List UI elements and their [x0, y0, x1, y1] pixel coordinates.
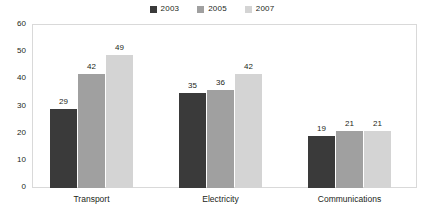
- y-tick-label: 40: [17, 74, 26, 82]
- bar-group-communications: 192121: [308, 25, 391, 188]
- legend-item-2005: 2005: [197, 5, 227, 13]
- legend-item-2007: 2007: [245, 5, 275, 13]
- x-category-label-communications: Communications: [290, 194, 410, 204]
- bar-group-transport: 294249: [50, 25, 133, 188]
- bar-group-electricity: 353642: [179, 25, 262, 188]
- legend-item-2003: 2003: [150, 5, 180, 13]
- legend-swatch-2003: [150, 6, 157, 13]
- y-tick-label: 50: [17, 47, 26, 55]
- chart-legend: 2003 2005 2007: [0, 2, 424, 16]
- y-tick-label: 0: [22, 183, 26, 191]
- legend-swatch-2005: [197, 6, 204, 13]
- bar-communications-2005[interactable]: [336, 131, 363, 188]
- x-axis: TransportElectricityCommunications: [33, 192, 416, 212]
- bar-value-label: 19: [307, 125, 337, 133]
- legend-label-2005: 2005: [208, 5, 227, 13]
- x-category-label-transport: Transport: [32, 194, 152, 204]
- bars-layer: 294249353642192121: [33, 25, 416, 188]
- bar-transport-2005[interactable]: [78, 74, 105, 188]
- bar-value-label: 29: [49, 98, 79, 106]
- bar-communications-2007[interactable]: [364, 131, 391, 188]
- bar-communications-2003[interactable]: [308, 136, 335, 188]
- y-tick-label: 10: [17, 156, 26, 164]
- y-tick-label: 20: [17, 129, 26, 137]
- bar-value-label: 42: [234, 63, 264, 71]
- y-axis: 0102030405060: [0, 24, 30, 188]
- bar-value-label: 35: [178, 82, 208, 90]
- legend-label-2007: 2007: [256, 5, 275, 13]
- legend-label-2003: 2003: [161, 5, 180, 13]
- x-category-label-electricity: Electricity: [161, 194, 281, 204]
- bar-electricity-2007[interactable]: [235, 74, 262, 188]
- bar-value-label: 21: [335, 120, 365, 128]
- bar-value-label: 36: [206, 79, 236, 87]
- legend-swatch-2007: [245, 6, 252, 13]
- bar-value-label: 49: [105, 44, 135, 52]
- bar-electricity-2005[interactable]: [207, 90, 234, 188]
- bar-transport-2007[interactable]: [106, 55, 133, 188]
- y-tick-label: 60: [17, 20, 26, 28]
- bar-value-label: 21: [363, 120, 393, 128]
- bar-transport-2003[interactable]: [50, 109, 77, 188]
- bar-electricity-2003[interactable]: [179, 93, 206, 188]
- y-tick-label: 30: [17, 102, 26, 110]
- bar-value-label: 42: [77, 63, 107, 71]
